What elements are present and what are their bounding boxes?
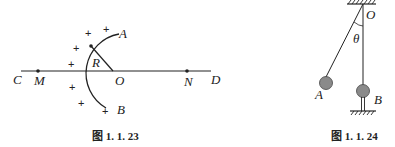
label-d: D <box>210 72 221 87</box>
label-a: A <box>314 87 323 102</box>
point-n <box>185 69 189 73</box>
charge-plus: + <box>78 97 84 109</box>
label-m: M <box>33 73 46 88</box>
figure-1-1-24: O θ A B 图 1. 1. 24 <box>314 0 382 142</box>
radius-point <box>89 44 93 48</box>
charge-plus: + <box>85 27 91 39</box>
charge-plus: + <box>69 81 75 93</box>
caption-right: 图 1. 1. 24 <box>331 130 378 142</box>
label-o: O <box>366 7 376 22</box>
label-o: O <box>115 73 125 88</box>
charge-plus: + <box>102 105 108 117</box>
label-n: N <box>183 74 194 89</box>
caption-left: 图 1. 1. 23 <box>92 130 139 142</box>
theta-arc <box>354 22 363 26</box>
label-r: R <box>91 55 100 70</box>
label-theta: θ <box>353 31 360 46</box>
label-b: B <box>117 102 125 117</box>
label-a: A <box>118 26 127 41</box>
charge-plus: + <box>68 58 74 70</box>
label-b: B <box>374 92 382 107</box>
diagram-canvas: + + + + + + + A B C D M N O R 图 1. 1. 23 <box>0 0 395 147</box>
charge-plus: + <box>73 42 79 54</box>
ball-b <box>357 85 370 98</box>
label-c: C <box>13 72 22 87</box>
figure-1-1-23: + + + + + + + A B C D M N O R 图 1. 1. 23 <box>13 23 221 142</box>
charge-plus: + <box>103 23 109 35</box>
